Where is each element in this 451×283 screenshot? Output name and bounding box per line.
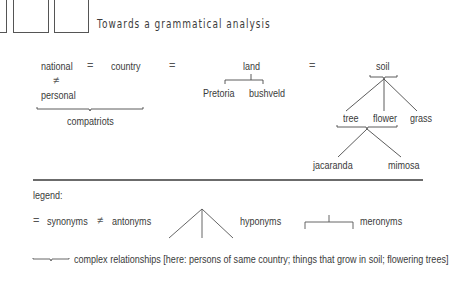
legend-hyponyms-label: hyponyms [240, 215, 281, 227]
word-grass: grass [410, 112, 432, 124]
word-jacaranda: jacaranda [313, 159, 353, 171]
word-personal: personal [41, 89, 76, 101]
legend-complex-label: complex relationships [here: persons of … [74, 253, 448, 265]
word-bushveld: bushveld [249, 87, 285, 99]
word-tree: tree [343, 112, 359, 124]
legend-synonyms-label: synonyms [47, 215, 88, 227]
legend-antonyms-symbol: ≠ [97, 214, 103, 226]
synonym-symbol-1: = [87, 59, 93, 71]
word-compatriots: compatriots [67, 115, 114, 127]
legend-synonyms-symbol: = [33, 214, 39, 226]
synonym-symbol-3: = [309, 59, 315, 71]
diagram-lines [0, 0, 451, 283]
word-soil: soil [376, 60, 390, 72]
synonym-symbol-2: = [169, 59, 175, 71]
word-land: land [243, 60, 260, 72]
antonym-symbol: ≠ [53, 74, 59, 86]
word-national: national [41, 60, 73, 72]
word-country: country [111, 60, 141, 72]
word-pretoria: Pretoria [203, 87, 235, 99]
legend-meronyms-label: meronyms [360, 215, 402, 227]
legend-heading: legend: [33, 189, 63, 201]
word-flower: flower [373, 112, 397, 124]
word-mimosa: mimosa [388, 159, 420, 171]
legend-antonyms-label: antonyms [112, 215, 151, 227]
